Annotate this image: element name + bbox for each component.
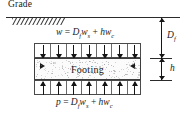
concrete-speck	[115, 62, 116, 63]
concrete-speck	[134, 67, 135, 68]
concrete-speck	[67, 72, 68, 73]
concrete-speck	[91, 66, 92, 67]
concrete-speck	[65, 67, 66, 68]
concrete-speck	[121, 69, 122, 70]
concrete-speck	[106, 78, 107, 79]
concrete-speck	[62, 75, 63, 76]
concrete-speck	[79, 69, 80, 70]
concrete-speck	[132, 74, 133, 75]
concrete-speck	[41, 78, 42, 79]
concrete-speck	[76, 62, 77, 63]
concrete-speck	[45, 76, 46, 77]
thickness-dimension-line	[161, 58, 162, 80]
concrete-speck	[75, 66, 76, 67]
thickness-dimension-label: h	[170, 63, 175, 73]
concrete-speck	[40, 62, 41, 63]
load-band-divider	[50, 81, 51, 94]
depth-symbol: D	[167, 30, 174, 40]
load-arrow-down	[134, 45, 135, 58]
concrete-speck	[119, 71, 120, 72]
concrete-speck	[54, 62, 55, 63]
concrete-speck	[82, 77, 83, 78]
concrete-speck	[82, 67, 83, 68]
pressure-arrow-up	[58, 82, 59, 95]
concrete-speck	[79, 60, 80, 61]
concrete-speck	[70, 62, 71, 63]
concrete-speck	[81, 69, 82, 70]
concrete-speck	[94, 77, 95, 78]
concrete-speck	[139, 72, 140, 73]
top-load-band	[34, 43, 141, 58]
pressure-arrow-up	[89, 82, 90, 95]
eq-top-lhs: w	[56, 27, 62, 37]
load-band-divider	[111, 81, 112, 94]
concrete-speck	[87, 69, 88, 70]
pressure-arrow-up	[73, 82, 74, 95]
concrete-speck	[116, 76, 117, 77]
concrete-speck	[102, 62, 103, 63]
load-band-divider	[127, 81, 128, 94]
concrete-speck	[48, 71, 49, 72]
concrete-speck	[138, 72, 139, 73]
load-arrow-down	[104, 45, 105, 58]
eq-bot-plus: +	[91, 97, 96, 107]
concrete-speck	[47, 73, 48, 74]
concrete-speck	[51, 73, 52, 74]
concrete-speck	[114, 77, 115, 78]
concrete-speck	[41, 75, 42, 76]
eq-top-term2-wsub: c	[111, 32, 114, 39]
eq-top-plus: +	[92, 27, 97, 37]
concrete-speck	[69, 61, 70, 62]
load-arrow-down	[89, 45, 90, 58]
footing-body: Footing	[34, 58, 141, 80]
concrete-speck	[109, 75, 110, 76]
eq-bot-equals: =	[63, 97, 68, 107]
eq-bot-term1-var: D	[71, 97, 78, 107]
concrete-speck	[104, 64, 105, 65]
bottom-pressure-equation: p = Dfws + hwc	[56, 97, 113, 109]
concrete-speck	[138, 74, 139, 75]
load-band-divider	[66, 44, 67, 57]
concrete-speck	[82, 62, 83, 63]
eq-top-term1-wsub: s	[88, 32, 91, 39]
concrete-speck	[127, 67, 128, 68]
concrete-speck	[37, 62, 38, 63]
concrete-speck	[79, 75, 80, 76]
concrete-speck	[62, 62, 63, 63]
hatch-mark	[60, 18, 66, 25]
concrete-speck	[93, 73, 94, 74]
concrete-speck	[51, 61, 52, 62]
concrete-speck	[127, 64, 128, 65]
concrete-speck	[55, 67, 56, 68]
concrete-speck	[72, 71, 73, 72]
pressure-arrow-up	[134, 82, 135, 95]
load-band-divider	[96, 44, 97, 57]
grade-label: Grade	[8, 0, 32, 9]
eq-bot-lhs: p	[56, 97, 61, 107]
concrete-speck	[128, 69, 129, 70]
concrete-speck	[127, 71, 128, 72]
concrete-speck	[109, 71, 110, 72]
concrete-speck	[52, 73, 53, 74]
concrete-speck	[133, 72, 134, 73]
concrete-speck	[82, 78, 83, 79]
pressure-arrow-up	[119, 82, 120, 95]
footing-diagram: Grade w = Dfws + hwc Footing p = Dfws + …	[0, 0, 189, 116]
concrete-speck	[55, 76, 56, 77]
dimension-tick-footing-bottom	[150, 80, 172, 81]
concrete-speck	[127, 74, 128, 75]
load-band-divider	[66, 81, 67, 94]
bottom-pressure-band	[34, 80, 141, 95]
load-band-divider	[96, 81, 97, 94]
concrete-speck	[134, 62, 135, 63]
concrete-speck	[62, 67, 63, 68]
pressure-arrow-up	[43, 82, 44, 95]
concrete-speck	[66, 60, 67, 61]
concrete-speck	[64, 71, 65, 72]
pressure-arrow-up	[104, 82, 105, 95]
load-band-divider	[127, 44, 128, 57]
load-band-divider	[81, 44, 82, 57]
concrete-speck	[133, 61, 134, 62]
concrete-speck	[88, 77, 89, 78]
concrete-speck	[39, 66, 40, 67]
